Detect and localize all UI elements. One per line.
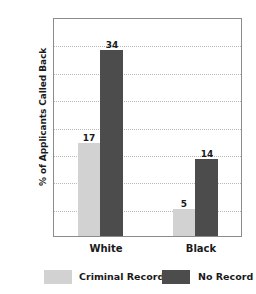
bar-value-black-criminal-record: 5 <box>169 200 199 209</box>
gridline-25 <box>54 101 241 102</box>
legend-label-criminal-record: Criminal Record <box>79 271 164 282</box>
bar-black-criminal-record <box>173 209 195 236</box>
bar-white-no-record <box>100 50 123 236</box>
bar-value-white-criminal-record: 17 <box>74 134 104 143</box>
bar-black-no-record <box>195 159 218 236</box>
gridline-30 <box>54 74 241 75</box>
bar-chart-figure: % of Applicants Called Back 40 35 30 25 … <box>0 0 256 294</box>
plot-area: 17 34 5 14 <box>53 18 242 237</box>
x-tick-label-white: White <box>76 243 136 254</box>
bar-white-criminal-record <box>78 143 100 236</box>
gridline-20 <box>54 129 241 130</box>
legend-swatch-no-record <box>162 270 190 284</box>
x-tick-label-black: Black <box>171 243 231 254</box>
y-axis-title: % of Applicants Called Back <box>38 22 48 212</box>
legend-label-no-record: No Record <box>198 271 253 282</box>
gridline-35 <box>54 46 241 47</box>
bar-value-white-no-record: 34 <box>97 41 127 50</box>
legend-swatch-criminal-record <box>44 270 72 284</box>
bar-value-black-no-record: 14 <box>192 150 222 159</box>
chart-legend: Criminal Record No Record <box>0 268 256 288</box>
